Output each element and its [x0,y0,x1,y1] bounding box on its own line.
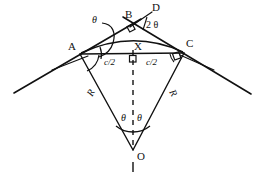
label-point-b: B [125,9,132,20]
tangent-line-right [123,17,251,94]
label-theta-center-left: θ [121,113,126,123]
radius-oc [133,53,184,150]
curve-arc-ac [81,41,183,53]
label-half-chord-left: c/2 [104,58,115,67]
tangent-line-left [14,19,141,93]
label-theta-center-right: θ [137,113,142,123]
label-half-chord-right: c/2 [146,58,157,67]
right-angle-marker-b [127,24,135,32]
right-angle-marker-c [173,52,181,60]
label-point-c: C [186,38,193,49]
label-theta-tangent: θ [92,15,97,25]
chord-ac [80,53,184,54]
geometry-diagram: A B C D X O θ 2 θ c/2 c/2 R R θ θ [0,0,264,177]
radius-oa [80,54,133,150]
tangent-stub-right [180,55,214,70]
label-point-a: A [68,41,76,52]
label-point-x: X [134,41,142,52]
diagram-canvas [0,0,264,177]
label-point-d: D [152,2,160,13]
label-point-o: O [137,151,145,162]
label-2theta-deflection: 2 θ [146,20,158,30]
